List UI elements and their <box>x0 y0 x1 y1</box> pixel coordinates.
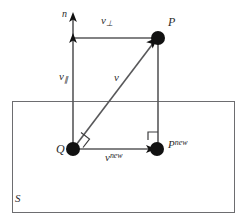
label-v-parallel-subscript: ∥ <box>64 75 68 84</box>
label-point-p-new: Pnew <box>168 139 187 150</box>
label-v-perpendicular: v⊥ <box>101 15 113 28</box>
point-q-dot <box>66 142 80 156</box>
right-angle-marker-q-icon <box>81 133 90 148</box>
diagram-canvas <box>0 0 248 222</box>
label-v: v <box>114 72 119 83</box>
v-diagonal-line <box>73 43 153 149</box>
label-point-p: P <box>168 16 175 28</box>
label-point-p-new-superscript: new <box>175 138 188 147</box>
vector-decomposition-diagram: n v⊥ P v∥ v Q Pnew vnew S <box>0 0 248 222</box>
point-p-dot <box>151 31 165 45</box>
label-v-new: vnew <box>105 152 123 163</box>
label-v-perpendicular-subscript: ⊥ <box>106 19 113 28</box>
label-v-new-superscript: new <box>110 151 123 160</box>
right-angle-marker-pnew-icon <box>148 132 158 140</box>
label-point-p-new-base: P <box>168 138 175 150</box>
label-normal-n: n <box>62 9 67 19</box>
label-surface-s: S <box>15 193 21 204</box>
label-v-parallel: v∥ <box>59 71 68 84</box>
label-point-q: Q <box>56 143 65 155</box>
point-pnew-dot <box>150 142 164 156</box>
plane-s-rectangle <box>13 102 235 213</box>
